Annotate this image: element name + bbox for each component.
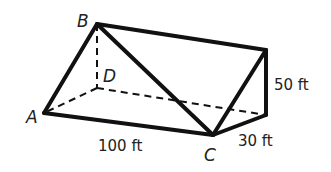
vertex-label-C: C xyxy=(204,145,216,165)
vertex-label-B: B xyxy=(77,11,89,31)
vertex-label-A: A xyxy=(25,107,38,127)
dimension-length: 100 ft xyxy=(98,137,142,155)
dimension-width: 30 ft xyxy=(238,132,273,150)
triangular-prism-diagram: B D A C 50 ft 100 ft 30 ft xyxy=(0,0,331,172)
edge-EC xyxy=(213,50,266,135)
vertex-label-D: D xyxy=(103,66,116,86)
edge-AC xyxy=(44,113,213,135)
dimension-height: 50 ft xyxy=(274,76,309,94)
